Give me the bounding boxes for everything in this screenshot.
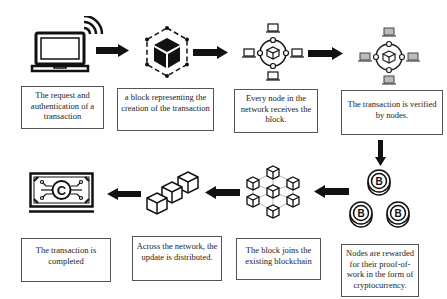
verified-nodes-icon	[356, 24, 422, 90]
step-box-6: The block joins the existing blockchain	[236, 238, 321, 280]
step-box-7: Across the network, the update is distri…	[132, 236, 222, 281]
step-box-1: The request and authentication of a tran…	[21, 86, 104, 129]
svg-text:B: B	[375, 176, 382, 187]
arrow-left-2	[205, 186, 241, 199]
step-label-7: Across the network, the update is distri…	[133, 241, 221, 262]
arrow-left-1	[314, 185, 350, 198]
step-box-4: The transaction is verified by nodes.	[341, 90, 443, 135]
arrow-right-3	[308, 47, 344, 60]
step-label-1: The request and authentication of a tran…	[22, 90, 103, 122]
step-box-3: Every node in the network receives the b…	[234, 89, 318, 133]
blockchain-network-icon	[243, 164, 305, 220]
hexagon-block-icon	[144, 26, 190, 78]
step-box-8: The transaction is completed	[21, 238, 111, 282]
arrow-down	[375, 140, 386, 166]
bitcoin-coins-icon: BBB	[345, 167, 415, 231]
step-label-6: The block joins the existing blockchain	[237, 245, 320, 266]
crypto-banknote-icon: C	[29, 172, 95, 214]
step-label-4: The transaction is verified by nodes.	[342, 99, 442, 120]
arrow-right-1	[96, 44, 130, 57]
step-label-2: a block representing the creation of the…	[118, 92, 213, 113]
arrow-right-2	[193, 46, 229, 59]
network-nodes-icon	[240, 20, 306, 86]
step-box-5: Nodes are rewarded for their proof-of-wo…	[341, 244, 419, 297]
chained-cubes-icon	[146, 170, 202, 218]
step-label-8: The transaction is completed	[22, 245, 110, 266]
laptop-wifi-icon	[30, 16, 105, 76]
svg-text:C: C	[57, 183, 67, 198]
arrow-left-3	[107, 188, 142, 200]
step-label-3: Every node in the network receives the b…	[235, 93, 317, 125]
svg-text:B: B	[357, 208, 364, 219]
step-box-2: a block representing the creation of the…	[117, 88, 214, 131]
svg-text:B: B	[394, 208, 401, 219]
step-label-5: Nodes are rewarded for their proof-of-wo…	[342, 248, 418, 290]
